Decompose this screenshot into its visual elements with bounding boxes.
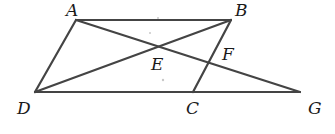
point-label-f: F <box>221 44 235 64</box>
point-label-d: D <box>16 98 31 118</box>
scan-speck <box>157 17 159 19</box>
scan-speck <box>162 79 164 81</box>
geometry-diagram: A B C D E F G <box>0 0 335 134</box>
segment-ad <box>35 20 76 92</box>
point-label-c: C <box>186 98 199 118</box>
diagram-canvas: A B C D E F G <box>0 0 335 134</box>
point-label-g: G <box>308 98 322 118</box>
point-label-e: E <box>150 54 164 74</box>
labels-group: A B C D E F G <box>16 0 322 118</box>
point-label-b: B <box>234 0 248 20</box>
point-label-a: A <box>64 0 78 20</box>
scan-speck <box>149 32 151 34</box>
segment-ag <box>76 20 300 92</box>
segments-group <box>35 20 300 92</box>
segment-db <box>35 20 231 92</box>
